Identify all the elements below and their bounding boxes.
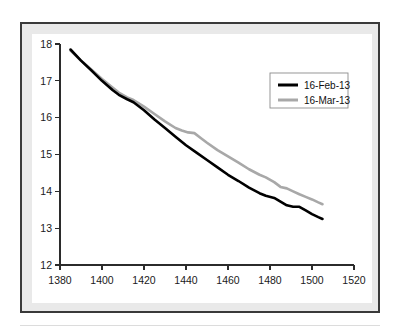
x-tick-label: 1420 <box>132 274 156 286</box>
bottom-divider <box>20 325 380 326</box>
y-tick-label: 15 <box>40 148 52 160</box>
y-tick-label: 13 <box>40 222 52 234</box>
legend-label: 16-Mar-13 <box>304 95 351 106</box>
figure-frame: 12131415161718 1380140014201440146014801… <box>20 22 380 313</box>
x-tick-label: 1500 <box>300 274 324 286</box>
legend-label: 16-Feb-13 <box>304 80 351 91</box>
x-tick-label: 1520 <box>342 274 366 286</box>
x-tick-label: 1440 <box>174 274 198 286</box>
figure-root: 12131415161718 1380140014201440146014801… <box>0 0 397 330</box>
figure-inner-band: 12131415161718 1380140014201440146014801… <box>22 24 378 311</box>
y-tick-label: 16 <box>40 111 52 123</box>
y-tick-label: 18 <box>40 38 52 50</box>
y-tick-label: 17 <box>40 75 52 87</box>
x-tick-label: 1460 <box>216 274 240 286</box>
plot-card: 12131415161718 1380140014201440146014801… <box>32 34 368 299</box>
x-tick-label: 1380 <box>48 274 72 286</box>
y-tick-label: 14 <box>40 185 52 197</box>
x-tick-label: 1480 <box>258 274 282 286</box>
y-tick-label: 12 <box>40 259 52 271</box>
x-tick-label: 1400 <box>90 274 114 286</box>
chart-legend: 16-Feb-1316-Mar-13 <box>270 73 351 108</box>
line-chart: 12131415161718 1380140014201440146014801… <box>22 24 382 315</box>
